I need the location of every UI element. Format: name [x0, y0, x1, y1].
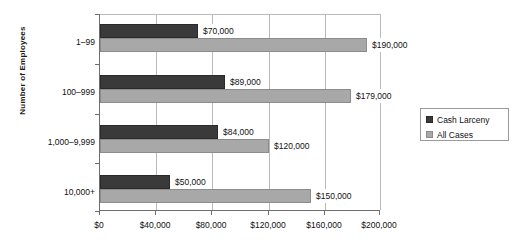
bar-value-label: $50,000 — [172, 175, 208, 189]
bar-value-label: $89,000 — [227, 75, 263, 89]
bar-all-cases[interactable] — [100, 38, 367, 52]
bar-all-cases[interactable] — [100, 89, 351, 103]
bar-all-cases[interactable] — [100, 139, 269, 153]
bar-cash-larceny[interactable] — [100, 125, 218, 139]
legend-item-cash-larceny[interactable]: Cash Larceny — [426, 113, 503, 126]
x-axis-tick-label: $80,000 — [196, 220, 227, 230]
x-axis-tick-mark — [379, 211, 380, 215]
legend-label: All Cases — [437, 130, 473, 140]
bar-value-label: $84,000 — [220, 125, 256, 139]
bar-all-cases[interactable] — [100, 189, 311, 203]
y-axis-tick-labels: 1–99 100–999 1,000–9,999 10,000+ — [0, 0, 95, 247]
y-axis-tick-label: 1,000–9,999 — [5, 137, 95, 147]
legend-label: Cash Larceny — [437, 115, 489, 125]
x-axis-tick-mark — [268, 211, 269, 215]
chart-legend: Cash Larceny All Cases — [420, 108, 509, 141]
x-axis-tick-label: $200,000 — [361, 220, 396, 230]
plot-top-rule — [100, 14, 380, 15]
x-axis-tick-label: $120,000 — [250, 220, 285, 230]
bar-value-label: $150,000 — [313, 189, 353, 203]
bar-value-label: $70,000 — [200, 24, 236, 38]
x-axis-tick-label: $0 — [94, 220, 103, 230]
x-axis-tick-mark — [211, 211, 212, 215]
bar-value-label: $179,000 — [353, 89, 393, 103]
legend-swatch-icon — [426, 131, 433, 138]
bar-cash-larceny[interactable] — [100, 24, 198, 38]
legend-item-all-cases[interactable]: All Cases — [426, 128, 503, 141]
x-axis-tick-mark — [155, 211, 156, 215]
bar-chart: Number of Employees 1–99 100–999 1,000–9… — [0, 0, 518, 247]
y-axis-tick-label: 1–99 — [5, 37, 95, 47]
y-axis-tick-label: 100–999 — [5, 87, 95, 97]
legend-swatch-icon — [426, 116, 433, 123]
bar-value-label: $190,000 — [369, 38, 409, 52]
x-axis-tick-label: $160,000 — [306, 220, 341, 230]
x-axis-tick-mark — [324, 211, 325, 215]
plot-area: $70,000 $190,000 $89,000 $179,000 $84,00… — [99, 14, 380, 211]
x-axis-tick-mark — [99, 211, 100, 215]
bar-cash-larceny[interactable] — [100, 75, 225, 89]
y-axis-tick-label: 10,000+ — [5, 187, 95, 197]
bar-value-label: $120,000 — [271, 139, 311, 153]
x-axis-tick-label: $40,000 — [140, 220, 171, 230]
bar-cash-larceny[interactable] — [100, 175, 170, 189]
